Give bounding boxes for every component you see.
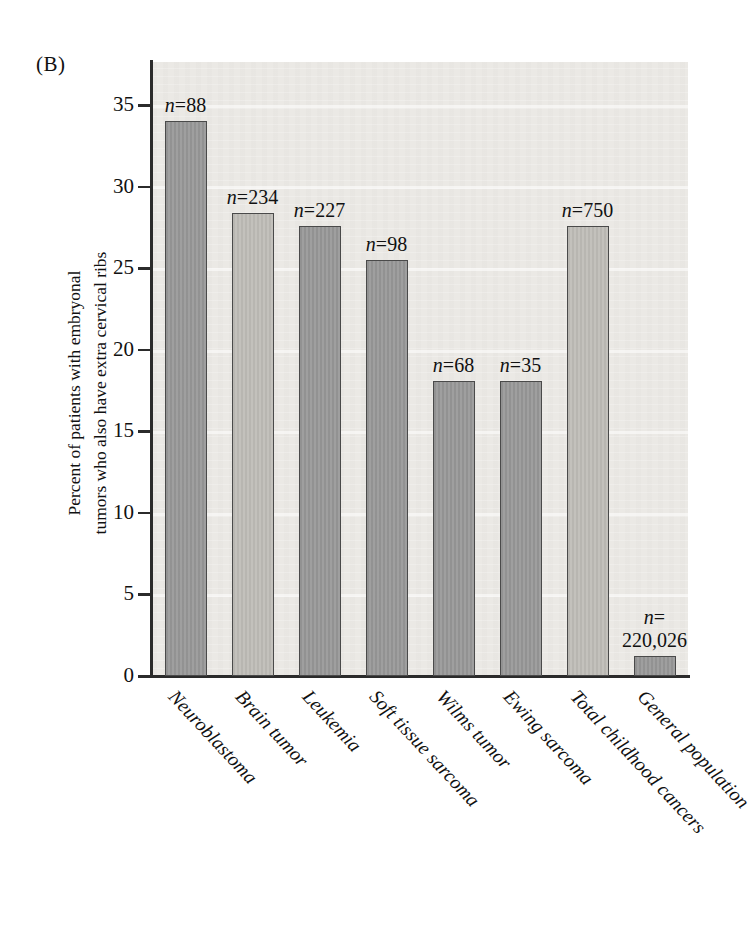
y-tick-label-30: 30 (94, 174, 134, 199)
bar-value-label-line: n=227 (250, 199, 390, 222)
bar-general-population[interactable] (634, 656, 676, 676)
italic-n: n (562, 199, 572, 221)
bar-value-label-line: n=88 (116, 94, 256, 117)
y-tick-15 (138, 430, 151, 433)
bar-ewing-sarcoma[interactable] (500, 381, 542, 676)
y-tick-label-25: 25 (94, 255, 134, 280)
y-tick-label-0: 0 (94, 663, 134, 688)
y-tick-5 (138, 593, 151, 596)
bar-value-label-line: n=98 (317, 233, 457, 256)
y-tick-10 (138, 512, 151, 515)
y-tick-label-group: 05101520253035 (88, 0, 134, 938)
bar-brain-tumor[interactable] (232, 213, 274, 676)
bar-value-label-line: n=35 (451, 354, 591, 377)
y-tick-25 (138, 267, 151, 270)
y-tick-label-5: 5 (94, 581, 134, 606)
x-tick-label-total-childhood-cancers: Total childhood cancers (565, 686, 709, 838)
bar-value-label-line: 220,026 (585, 629, 725, 652)
italic-n: n (294, 199, 304, 221)
y-tick-label-15: 15 (94, 418, 134, 443)
x-tick-label-general-population: General population (632, 686, 752, 813)
y-axis-title-line-1: Percent of patients with embryonal (61, 113, 87, 673)
bar-value-label-line: n=750 (518, 199, 658, 222)
italic-n: n (165, 94, 175, 116)
bar-value-label-soft-tissue-sarcoma: n=98 (317, 233, 457, 256)
y-tick-20 (138, 349, 151, 352)
y-axis-line (150, 60, 153, 678)
x-tick-label-leukemia: Leukemia (297, 686, 365, 756)
bar-value-label-leukemia: n=227 (250, 199, 390, 222)
italic-n: n (227, 186, 237, 208)
y-tick-label-20: 20 (94, 337, 134, 362)
italic-n: n (500, 354, 510, 376)
y-tick-label-10: 10 (94, 500, 134, 525)
y-tick-0 (138, 675, 151, 678)
italic-n: n (433, 354, 443, 376)
italic-n: n (644, 606, 654, 628)
bar-value-label-ewing-sarcoma: n=35 (451, 354, 591, 377)
bar-value-label-neuroblastoma: n=88 (116, 94, 256, 117)
bar-value-label-total-childhood-cancers: n=750 (518, 199, 658, 222)
italic-n: n (366, 233, 376, 255)
bar-leukemia[interactable] (299, 226, 341, 676)
bar-wilms-tumor[interactable] (433, 381, 475, 676)
bar-soft-tissue-sarcoma[interactable] (366, 260, 408, 676)
y-tick-30 (138, 186, 151, 189)
panel-letter: (B) (36, 52, 66, 77)
bar-value-label-general-population: n=220,026 (585, 606, 725, 652)
bar-value-label-line: n= (585, 606, 725, 629)
